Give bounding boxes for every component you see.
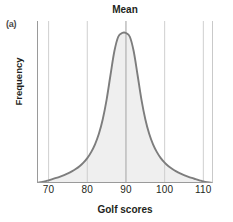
panel-label: (a) xyxy=(6,20,16,29)
x-tick-label-90: 90 xyxy=(120,184,132,195)
y-axis-title: Frequency xyxy=(13,42,24,122)
x-tick-label-70: 70 xyxy=(43,184,55,195)
chart-title: Mean xyxy=(37,4,213,16)
distribution-chart xyxy=(37,21,213,183)
plot-area xyxy=(37,21,213,183)
x-axis-tick-labels: 708090100110 xyxy=(0,184,233,200)
distribution-fill xyxy=(37,33,213,183)
x-tick-label-80: 80 xyxy=(82,184,94,195)
x-axis-title: Golf scores xyxy=(37,204,213,215)
x-tick-label-110: 110 xyxy=(195,184,212,195)
x-tick-label-100: 100 xyxy=(156,184,173,195)
figure-panel-a: (a) Mean Frequency 708090100110 Golf sco… xyxy=(0,0,233,222)
